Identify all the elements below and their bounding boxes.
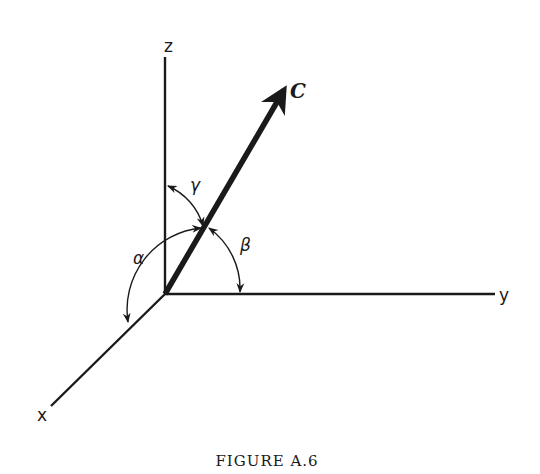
x-axis xyxy=(51,294,165,406)
y-axis-label: y xyxy=(499,285,509,305)
alpha-label: α xyxy=(133,248,144,268)
gamma-label: γ xyxy=(190,175,201,195)
beta-arc xyxy=(209,228,240,292)
direction-angles-diagram: z y x C γ α β FIGURE A.6 xyxy=(0,0,540,474)
vector-c xyxy=(165,90,284,294)
z-axis-label: z xyxy=(164,36,173,56)
x-axis-label: x xyxy=(37,405,47,425)
figure-caption: FIGURE A.6 xyxy=(215,452,318,470)
vector-c-label: C xyxy=(290,79,306,103)
beta-label: β xyxy=(239,235,251,255)
